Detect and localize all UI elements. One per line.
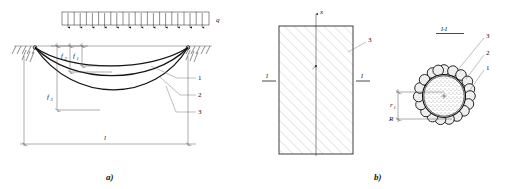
sag-label-f1: f 1 [73, 52, 79, 61]
cable-sag-diagram: f 2 f 1 f 3 1 2 3 [12, 43, 212, 182]
section-mark-left: I [262, 73, 276, 81]
left-anchor-support [12, 46, 37, 62]
engineering-figure: q [0, 0, 507, 189]
section-callout-1: 1 [486, 64, 490, 72]
svg-text:I: I [265, 73, 269, 79]
cable-curve-3 [35, 48, 188, 90]
section-callout-2: 2 [486, 49, 490, 57]
section-title: I-I [440, 26, 448, 32]
sag-label-f2: f 2 [61, 52, 68, 61]
axis-label-x: x [319, 8, 324, 16]
caption-a: a) [106, 172, 114, 182]
radius-label-inner: r 1 [390, 101, 396, 110]
sag-label-f3: f 3 [47, 93, 54, 102]
cable-cross-section: I-I [374, 26, 490, 182]
curve-label-1: 1 [198, 74, 202, 82]
block-callout-3: 3 [368, 36, 372, 44]
section-callout-3: 3 [486, 32, 490, 40]
svg-text:f: f [73, 52, 76, 60]
svg-text:3: 3 [51, 97, 54, 102]
svg-text:2: 2 [65, 56, 68, 61]
svg-text:f: f [47, 93, 50, 101]
curve-label-3: 3 [198, 108, 202, 116]
svg-text:1: 1 [77, 56, 79, 61]
span-label-l: l [104, 134, 106, 142]
svg-text:1: 1 [393, 105, 395, 110]
svg-text:I: I [360, 73, 364, 79]
right-anchor-support [186, 46, 210, 62]
caption-b: b) [374, 172, 382, 182]
load-label-q: q [216, 16, 220, 24]
radius-label-outer: R [388, 115, 394, 123]
uniform-load-diagram: q [62, 12, 220, 28]
section-block-elevation: x I I 3 [262, 8, 372, 156]
svg-text:f: f [61, 52, 64, 60]
section-mark-right: I [356, 73, 370, 81]
curve-callout-leaders [151, 66, 196, 112]
curve-label-2: 2 [198, 91, 202, 99]
